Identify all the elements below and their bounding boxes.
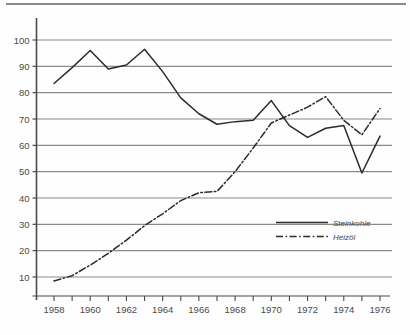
y-tick-label: 10 bbox=[19, 272, 30, 283]
y-tick-label: 40 bbox=[19, 193, 30, 204]
x-tick-label: 1964 bbox=[152, 304, 173, 315]
y-tick-label: 90 bbox=[19, 61, 30, 72]
x-tick-label: 1968 bbox=[225, 304, 246, 315]
x-axis-ticks: 1958196019621964196619681970197219741976 bbox=[43, 296, 390, 315]
series-group bbox=[54, 49, 380, 281]
y-tick-label: 80 bbox=[19, 87, 30, 98]
series-line-steinkohle bbox=[54, 49, 380, 173]
y-tick-label: 30 bbox=[19, 219, 30, 230]
x-tick-label: 1960 bbox=[80, 304, 101, 315]
y-tick-label: 70 bbox=[19, 114, 30, 125]
y-tick-label: 60 bbox=[19, 140, 30, 151]
x-tick-label: 1958 bbox=[43, 304, 64, 315]
axes bbox=[33, 18, 391, 300]
y-tick-label: 50 bbox=[19, 166, 30, 177]
x-tick-label: 1970 bbox=[261, 304, 282, 315]
y-axis-ticks: 102030405060708090100 bbox=[14, 35, 37, 283]
x-tick-label: 1966 bbox=[188, 304, 209, 315]
legend: SteinkohleHeizöl bbox=[276, 219, 371, 242]
y-tick-label: 20 bbox=[19, 245, 30, 256]
x-tick-label: 1972 bbox=[297, 304, 318, 315]
legend-label: Steinkohle bbox=[333, 219, 371, 228]
chart-figure: 1020304050607080901001958196019621964196… bbox=[0, 0, 410, 335]
legend-label: Heizöl bbox=[333, 233, 355, 242]
y-tick-label: 100 bbox=[14, 35, 30, 46]
line-chart: 1020304050607080901001958196019621964196… bbox=[0, 0, 410, 335]
x-tick-label: 1976 bbox=[369, 304, 390, 315]
x-tick-label: 1974 bbox=[333, 304, 354, 315]
x-tick-label: 1962 bbox=[116, 304, 137, 315]
